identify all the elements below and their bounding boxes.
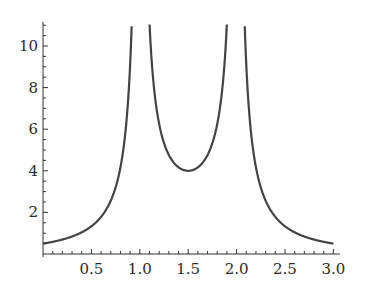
curve-segment	[43, 26, 132, 243]
function-curve	[43, 25, 333, 244]
y-tick-label: 8	[28, 79, 38, 97]
x-tick-label: 1.0	[128, 260, 152, 278]
tick-labels: 0.51.01.52.02.53.0246810	[19, 37, 345, 278]
x-tick-label: 3.0	[321, 260, 345, 278]
y-tick-label: 10	[19, 37, 38, 55]
y-tick-label: 4	[28, 162, 38, 180]
x-tick-label: 2.0	[225, 260, 249, 278]
y-tick-label: 6	[28, 120, 38, 138]
axes	[43, 22, 340, 257]
x-tick-label: 0.5	[79, 260, 103, 278]
x-tick-label: 2.5	[273, 260, 297, 278]
x-tick-label: 1.5	[176, 260, 200, 278]
curve-segment	[150, 25, 227, 171]
chart: 0.51.01.52.02.53.0246810	[0, 0, 369, 294]
curve-segment	[245, 26, 334, 243]
y-tick-label: 2	[28, 203, 38, 221]
